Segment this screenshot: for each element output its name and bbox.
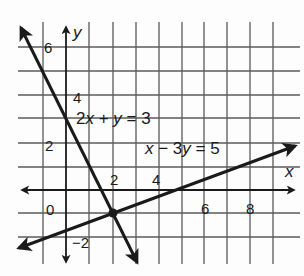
eq2-op: − 3 <box>154 139 183 158</box>
y-tick-2: 2 <box>45 138 53 153</box>
y-tick-neg2: −2 <box>72 235 89 250</box>
eq1-var-y: y <box>113 109 122 128</box>
eq1-rhs: = 3 <box>122 109 151 128</box>
line-x-minus-3y-equals-5 <box>19 146 295 248</box>
x-axis-label: x <box>285 163 294 180</box>
x-tick-4: 4 <box>152 172 160 187</box>
y-tick-6: 6 <box>44 40 52 55</box>
y-tick-4: 4 <box>73 90 81 105</box>
eq1-var-x: x <box>85 109 94 128</box>
eq2-rhs: = 5 <box>191 139 220 158</box>
x-tick-2: 2 <box>110 172 118 187</box>
graph-figure: y x 6 4 2 −2 0 2 4 6 8 2x + y = 3 x − 3y… <box>0 0 304 276</box>
intersection-point <box>109 209 118 218</box>
equation-label-line2: x − 3y = 5 <box>145 140 220 157</box>
x-tick-8: 8 <box>246 201 254 216</box>
eq2-var-y: y <box>182 139 191 158</box>
y-axis-label: y <box>73 24 82 41</box>
eq2-var-x: x <box>145 139 154 158</box>
equation-label-line1: 2x + y = 3 <box>76 110 151 127</box>
x-tick-6: 6 <box>201 201 209 216</box>
origin-label: 0 <box>46 202 54 217</box>
eq1-op: + <box>94 109 113 128</box>
